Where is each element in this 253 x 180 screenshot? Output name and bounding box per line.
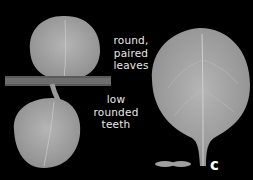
upper-leaf-label: round, paired leaves <box>111 34 151 72</box>
label-line: paired <box>111 47 151 60</box>
stem-band <box>5 76 111 86</box>
leaf-stalk <box>52 84 58 100</box>
label-line: rounded <box>90 106 142 119</box>
label-line: low <box>90 93 142 106</box>
upper-round-leaf <box>30 16 100 80</box>
label-line: leaves <box>111 59 151 72</box>
small-seedling-shape <box>155 161 191 167</box>
lower-leaf-label: low rounded teeth <box>90 93 142 131</box>
label-line: teeth <box>90 118 142 131</box>
panel-letter: c <box>210 156 219 174</box>
leaf-photograph <box>0 0 253 180</box>
large-spatulate-leaf <box>152 28 250 166</box>
label-line: round, <box>111 34 151 47</box>
lower-round-leaf <box>14 98 80 168</box>
